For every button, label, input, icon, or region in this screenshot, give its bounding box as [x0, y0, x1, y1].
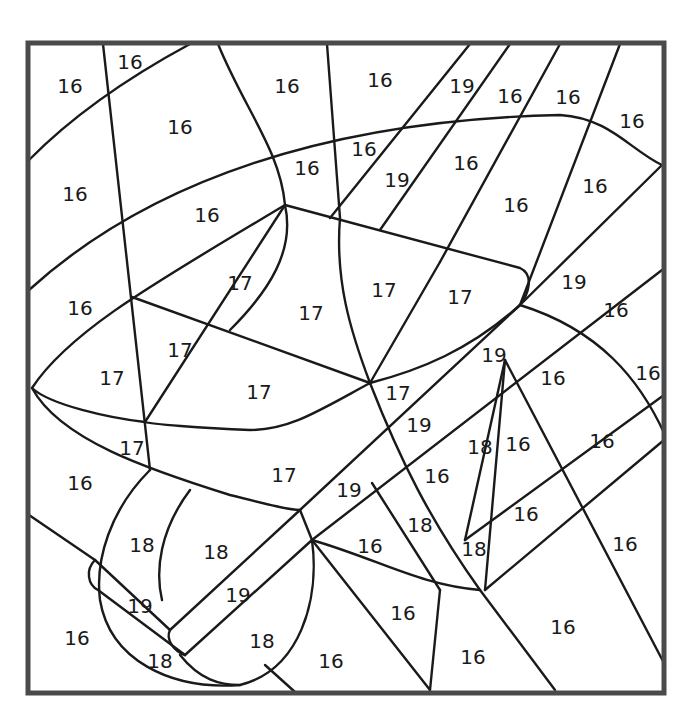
region-label: 16: [460, 645, 485, 669]
region-label: 16: [167, 115, 192, 139]
region-label: 16: [294, 156, 319, 180]
region-label: 19: [384, 168, 409, 192]
region-label: 16: [367, 68, 392, 92]
region-label: 16: [274, 74, 299, 98]
region-label: 17: [99, 366, 124, 390]
region-label: 18: [467, 435, 492, 459]
region-label: 16: [62, 182, 87, 206]
region-label: 18: [407, 513, 432, 537]
region-label: 16: [513, 502, 538, 526]
region-label: 17: [119, 436, 144, 460]
region-label: 16: [194, 203, 219, 227]
region-label: 19: [127, 594, 152, 618]
region-label: 17: [246, 380, 271, 404]
region-label: 17: [271, 463, 296, 487]
region-label: 16: [612, 532, 637, 556]
region-label: 17: [385, 381, 410, 405]
region-label: 17: [167, 338, 192, 362]
region-label: 16: [550, 615, 575, 639]
region-label: 16: [603, 298, 628, 322]
region-label: 16: [64, 626, 89, 650]
region-label: 16: [582, 174, 607, 198]
region-label: 16: [503, 193, 528, 217]
color-by-number-puzzle: 1616161616191616161616161619161616161717…: [0, 0, 700, 711]
region-label: 16: [505, 432, 530, 456]
region-label: 16: [318, 649, 343, 673]
region-label: 16: [117, 50, 142, 74]
region-number-labels: 1616161616191616161616161619161616161717…: [57, 50, 660, 673]
region-label: 16: [351, 137, 376, 161]
region-label: 18: [203, 540, 228, 564]
region-label: 16: [540, 366, 565, 390]
region-label: 17: [371, 278, 396, 302]
region-label: 16: [67, 471, 92, 495]
region-label: 19: [336, 478, 361, 502]
region-label: 19: [561, 270, 586, 294]
region-label: 16: [453, 151, 478, 175]
region-label: 16: [555, 85, 580, 109]
region-label: 18: [249, 629, 274, 653]
region-label: 16: [67, 296, 92, 320]
region-label: 16: [497, 84, 522, 108]
region-label: 17: [298, 301, 323, 325]
region-label: 19: [481, 343, 506, 367]
region-label: 19: [406, 413, 431, 437]
region-label: 16: [357, 534, 382, 558]
region-label: 18: [461, 537, 486, 561]
region-label: 17: [227, 271, 252, 295]
region-label: 16: [635, 361, 660, 385]
region-label: 16: [589, 429, 614, 453]
region-label: 19: [449, 74, 474, 98]
region-label: 19: [225, 583, 250, 607]
region-label: 16: [390, 601, 415, 625]
region-label: 17: [447, 285, 472, 309]
region-label: 18: [147, 649, 172, 673]
region-label: 16: [619, 109, 644, 133]
region-label: 16: [57, 74, 82, 98]
region-label: 16: [424, 464, 449, 488]
region-label: 18: [129, 533, 154, 557]
